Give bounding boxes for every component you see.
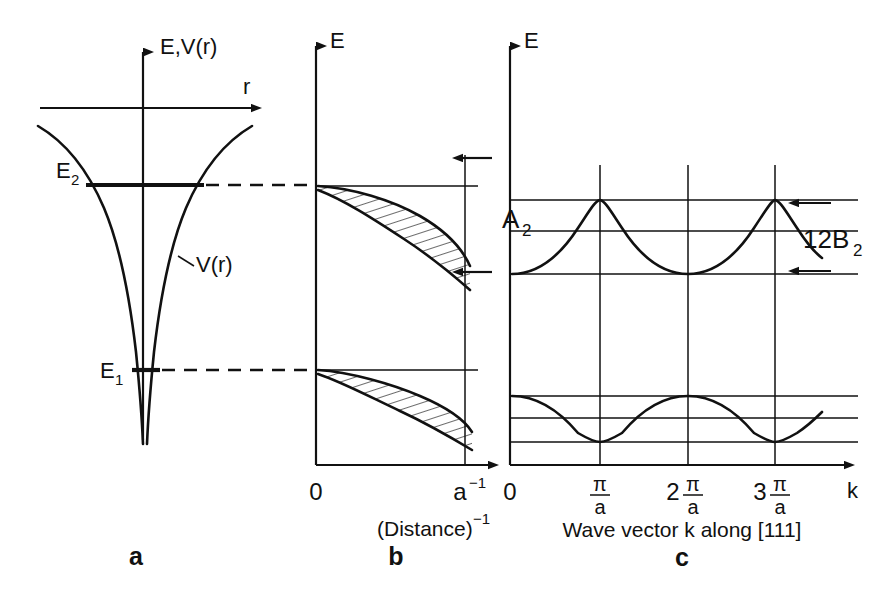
panel-a-curve-label: V(r) <box>196 252 233 277</box>
panel-c-tick-3pi-prefix: 3 <box>753 478 766 505</box>
panel-b-caption-superscript: −1 <box>473 510 490 527</box>
panel-c-x-axis-label: k <box>847 478 859 503</box>
panel-c-tick-label-0: 0 <box>503 478 516 505</box>
band-formation-figure: E,V(r) r V(r) E 2 E 1 a E <box>0 0 879 609</box>
panel-b-caption: (Distance) <box>377 517 473 540</box>
panel-b-tick-label-zero: 0 <box>309 478 322 505</box>
panel-c-tick-pi-numerator: π <box>593 473 607 495</box>
panel-b-y-axis-label: E <box>330 28 345 53</box>
panel-b-tick-label-a-superscript: −1 <box>469 474 486 491</box>
panel-c-letter: c <box>675 543 689 571</box>
panel-c-bandwidth-label-subscript: 2 <box>853 241 862 260</box>
panel-a-level-E1-label: E <box>100 358 115 383</box>
panel-c-tick-2pi-numerator: π <box>686 473 700 495</box>
panel-a-x-axis-label: r <box>243 74 250 99</box>
panel-c-bandwidth-label: 12B <box>803 224 849 254</box>
panel-c-tick-2pi-prefix: 2 <box>666 478 679 505</box>
panel-a-level-E2-subscript: 2 <box>71 171 79 188</box>
panel-a-level-E2-label: E <box>56 158 71 183</box>
panel-b-tick-label-a: a <box>453 478 467 505</box>
panel-a-y-axis-label: E,V(r) <box>160 34 217 59</box>
panel-c-tick-3pi-numerator: π <box>773 473 787 495</box>
panel-c-tick-3pi-denominator: a <box>774 496 786 518</box>
panel-c-tick-2pi-denominator: a <box>687 496 699 518</box>
panel-b-letter: b <box>388 542 403 570</box>
panel-c-y-axis-label: E <box>524 28 539 53</box>
panel-c-tick-pi-denominator: a <box>594 496 606 518</box>
panel-a-level-E1-subscript: 1 <box>115 371 123 388</box>
panel-a-letter: a <box>129 542 144 570</box>
panel-c-caption: Wave vector k along [111] <box>563 518 802 541</box>
